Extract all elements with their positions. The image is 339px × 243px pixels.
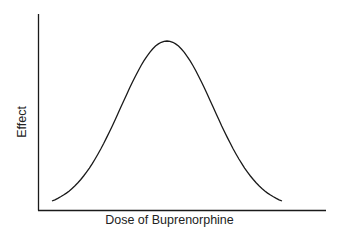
- plot-area: [0, 0, 339, 243]
- y-axis-label: Effect: [15, 106, 29, 138]
- effect-curve: [52, 41, 282, 201]
- dose-effect-chart: Effect Dose of Buprenorphine: [0, 0, 339, 243]
- x-axis-label: Dose of Buprenorphine: [0, 213, 339, 227]
